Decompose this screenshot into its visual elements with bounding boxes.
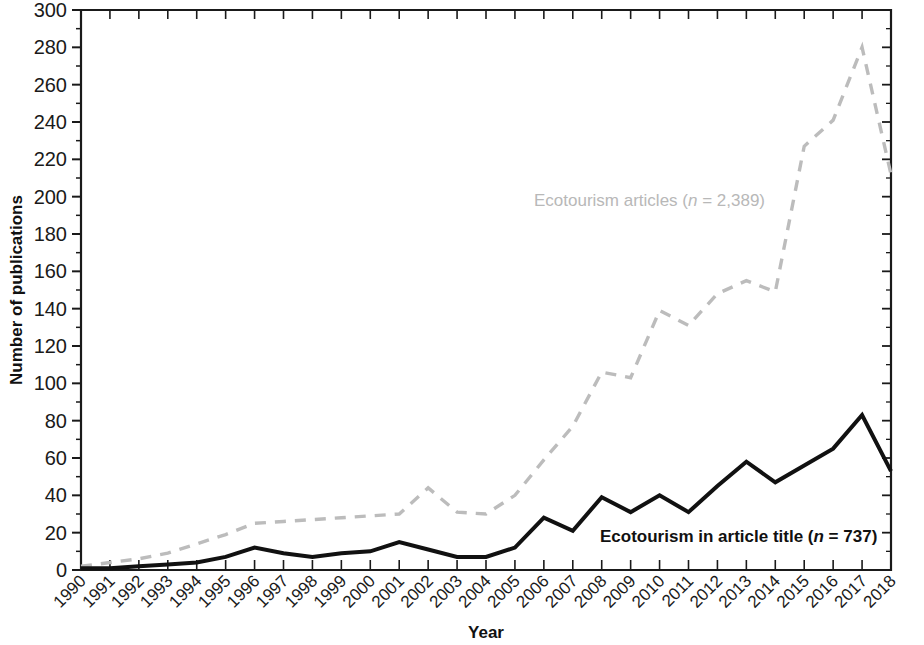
chart-canvas: 0204060801001201401601802002202402602803… [0,0,924,645]
y-tick-label: 220 [34,148,67,170]
x-tick-label: 1997 [252,571,292,611]
x-tick-label: 1998 [281,571,321,611]
y-axis-tick-labels: 0204060801001201401601802002202402602803… [34,0,67,581]
ecotourism-publications-chart: 0204060801001201401601802002202402602803… [0,0,924,645]
x-tick-label: 2006 [513,571,553,611]
series-line [81,47,891,566]
chart-annotations: Ecotourism articles (n = 2,389)Ecotouris… [534,191,877,546]
x-tick-label: 2012 [686,571,726,611]
x-tick-label: 1992 [108,571,148,611]
x-tick-label: 2000 [339,571,379,611]
y-tick-label: 160 [34,260,67,282]
x-tick-label: 2010 [628,571,668,611]
y-tick-label: 80 [45,410,67,432]
x-axis-title: Year [468,623,504,642]
chart-axes [81,10,891,570]
x-tick-label: 2009 [599,571,639,611]
black-series-label: Ecotourism in article title (n = 737) [600,527,877,546]
y-tick-label: 280 [34,36,67,58]
y-tick-label: 20 [45,522,67,544]
x-tick-label: 2005 [484,571,524,611]
chart-series [81,47,891,568]
y-tick-label: 40 [45,484,67,506]
x-tick-label: 2018 [860,571,900,611]
x-tick-label: 1994 [165,571,205,611]
y-axis-title: Number of publications [7,195,26,385]
y-tick-label: 300 [34,0,67,21]
x-tick-label: 1991 [79,571,119,611]
x-tick-label: 1993 [136,571,176,611]
x-axis-tick-labels: 1990199119921993199419951996199719981999… [50,571,900,611]
x-tick-label: 1999 [310,571,350,611]
y-tick-label: 140 [34,298,67,320]
x-tick-label: 1995 [194,571,234,611]
x-tick-label: 2017 [831,571,871,611]
x-tick-label: 2007 [541,571,581,611]
x-tick-label: 2002 [397,571,437,611]
y-tick-label: 0 [56,559,67,581]
y-tick-label: 200 [34,186,67,208]
x-tick-label: 2015 [773,571,813,611]
x-axis-ticks [81,10,891,570]
y-tick-label: 100 [34,372,67,394]
x-tick-label: 2008 [570,571,610,611]
y-tick-label: 120 [34,335,67,357]
x-tick-label: 2016 [802,571,842,611]
x-tick-label: 1996 [223,571,263,611]
y-tick-label: 180 [34,223,67,245]
x-tick-label: 2013 [715,571,755,611]
y-tick-label: 260 [34,74,67,96]
y-tick-label: 60 [45,447,67,469]
x-tick-label: 2014 [744,571,784,611]
x-tick-label: 2004 [455,571,495,611]
x-tick-label: 2001 [368,571,408,611]
y-tick-label: 240 [34,111,67,133]
gray-series-label: Ecotourism articles (n = 2,389) [534,191,765,210]
x-tick-label: 2003 [426,571,466,611]
